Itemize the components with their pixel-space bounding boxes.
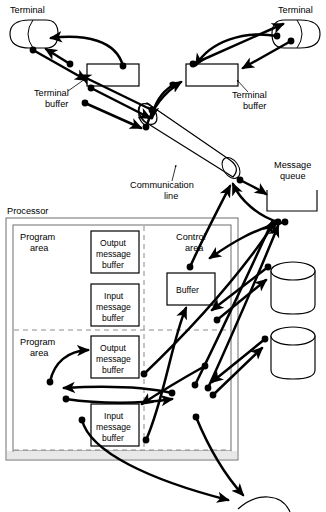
terminal-buffer-left-leader <box>68 79 85 91</box>
program-area-top-label-2: area <box>30 243 49 253</box>
communication-line-leader <box>172 165 176 181</box>
terminal-right-label: Terminal <box>278 5 313 15</box>
processor-label: Processor <box>7 206 48 216</box>
system-diagram: Processor Terminal Terminal Terminal buf… <box>0 0 326 512</box>
input-message-buffer-1-label-1: Input <box>104 291 124 301</box>
output-message-buffer-1-label-1: Output <box>100 238 126 248</box>
shaded-band <box>14 451 231 459</box>
message-queue-label-2: queue <box>280 171 306 181</box>
terminal-buffer-right-label-2: buffer <box>243 101 266 111</box>
diagram-canvas: Processor Terminal Terminal Terminal buf… <box>0 0 326 512</box>
input-message-buffer-1-label-3: buffer <box>102 313 124 323</box>
input-message-buffer-2-label-1: Input <box>104 411 124 421</box>
disk-upper <box>271 262 315 314</box>
terminal-buffer-left-label-2: buffer <box>45 99 68 109</box>
message-queue-label-1: Message <box>274 160 311 170</box>
output-message-buffer-1-label-2: message <box>96 249 131 259</box>
input-message-buffer-2-label-3: buffer <box>102 433 124 443</box>
program-area-top-label-1: Program <box>20 232 56 242</box>
program-area-bottom-label-2: area <box>30 348 49 358</box>
terminal-buffer-right-label-1: Terminal <box>232 90 267 100</box>
communication-line-label-2: line <box>164 191 178 201</box>
terminal-left-label: Terminal <box>10 5 45 15</box>
disk-lower <box>271 327 315 379</box>
terminal-buffer-left-label-1: Terminal <box>34 88 69 98</box>
terminal-left <box>10 20 58 48</box>
communication-line-label-1: Communication <box>130 180 194 190</box>
output-message-buffer-2-label-2: message <box>96 354 131 364</box>
message-queue <box>267 190 317 211</box>
program-area-bottom-label-1: Program <box>20 337 56 347</box>
output-message-buffer-2-label-3: buffer <box>102 365 124 375</box>
input-message-buffer-1-label-2: message <box>96 302 131 312</box>
input-message-buffer-2-label-2: message <box>96 422 131 432</box>
control-buffer-label: Buffer <box>176 285 199 295</box>
terminal-bottom-partial <box>238 497 290 512</box>
output-message-buffer-1-label-3: buffer <box>102 260 124 270</box>
output-message-buffer-2-label-1: Output <box>100 343 126 353</box>
